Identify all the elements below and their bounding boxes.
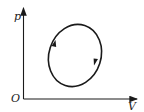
y-axis-label: p (14, 11, 21, 22)
origin-label: O (11, 93, 20, 104)
cycle-loop (41, 18, 110, 94)
cycle-arrow-down-icon (94, 59, 98, 66)
pv-diagram (0, 0, 144, 112)
x-axis-label: V (128, 101, 136, 112)
